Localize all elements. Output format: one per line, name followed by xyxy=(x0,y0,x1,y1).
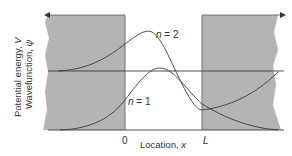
y-axis-label-line1: Potential energy, V xyxy=(12,36,23,117)
left-arrow-icon xyxy=(44,12,50,18)
label-n2: n = 2 xyxy=(156,29,179,40)
tick-zero: 0 xyxy=(122,135,128,146)
finite-square-well-diagram: n = 2 n = 1 0 L Location, x Potential en… xyxy=(0,0,292,156)
x-axis-label: Location, x xyxy=(140,139,187,150)
y-axis-label-line2: Wavefunction, ψ xyxy=(23,40,34,109)
tick-L: L xyxy=(203,135,209,146)
right-barrier-region xyxy=(202,15,281,130)
y-axis-label: Potential energy, V Wavefunction, ψ xyxy=(12,36,34,117)
label-n1: n = 1 xyxy=(128,96,151,107)
right-arrow-icon xyxy=(280,12,286,18)
